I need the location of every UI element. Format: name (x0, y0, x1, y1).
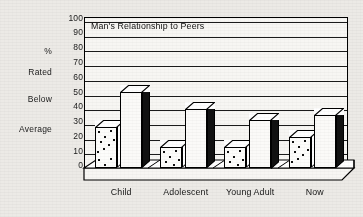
y-axis-tick-labels: 100 90 80 70 60 50 40 30 20 10 0 (57, 0, 83, 217)
y-tick-10: 10 (57, 146, 83, 156)
bar-plain-3 (314, 115, 336, 168)
category-label-now: Now (277, 187, 354, 197)
side-label-rated: Rated (0, 67, 52, 77)
bar-plain-1-side-face (207, 102, 215, 168)
y-tick-80: 80 (57, 42, 83, 52)
y-tick-90: 90 (57, 27, 83, 37)
bar-plain-3-side-face (336, 108, 344, 168)
gridline-0 (85, 169, 347, 170)
gridline-70 (85, 66, 347, 67)
bar-speckled-0-front-face (95, 127, 117, 168)
bar-plain-3-top-face (314, 108, 344, 115)
bar-speckled-0 (95, 127, 117, 168)
bar-plain-0 (120, 92, 142, 168)
side-label-average: Average (0, 124, 52, 134)
bar-chart-figure: % Rated Below Average 100 90 80 70 60 50… (0, 0, 363, 217)
bar-speckled-2-front-face (224, 147, 246, 168)
plot-area: Man's Relationship to Peers (84, 17, 348, 168)
gridline-90 (85, 37, 347, 38)
bar-plain-3-front-face (314, 115, 336, 168)
y-tick-50: 50 (57, 87, 83, 97)
y-tick-0: 0 (57, 160, 83, 170)
chart-title: Man's Relationship to Peers (91, 21, 204, 31)
side-label-below: Below (0, 94, 52, 104)
bar-speckled-3-front-face (289, 137, 311, 168)
bar-plain-2-front-face (249, 120, 271, 169)
y-tick-100: 100 (57, 13, 83, 23)
bar-speckled-1 (160, 147, 182, 168)
side-label-percent: % (0, 46, 52, 56)
bar-speckled-1-front-face (160, 147, 182, 168)
bar-plain-0-side-face (142, 85, 150, 168)
y-tick-60: 60 (57, 72, 83, 82)
bar-plain-1 (185, 109, 207, 168)
bar-plain-0-front-face (120, 92, 142, 168)
bar-plain-2-side-face (271, 112, 279, 168)
gridline-80 (85, 51, 347, 52)
y-tick-20: 20 (57, 131, 83, 141)
bar-plain-1-top-face (185, 102, 215, 109)
bar-speckled-2 (224, 147, 246, 168)
bar-speckled-3 (289, 137, 311, 168)
bar-plain-1-front-face (185, 109, 207, 168)
bar-plain-2-top-face (249, 113, 279, 120)
gridline-60 (85, 81, 347, 82)
y-tick-70: 70 (57, 57, 83, 67)
bar-plain-2 (249, 120, 271, 169)
bar-plain-0-top-face (120, 85, 150, 92)
y-tick-40: 40 (57, 101, 83, 111)
y-tick-30: 30 (57, 116, 83, 126)
